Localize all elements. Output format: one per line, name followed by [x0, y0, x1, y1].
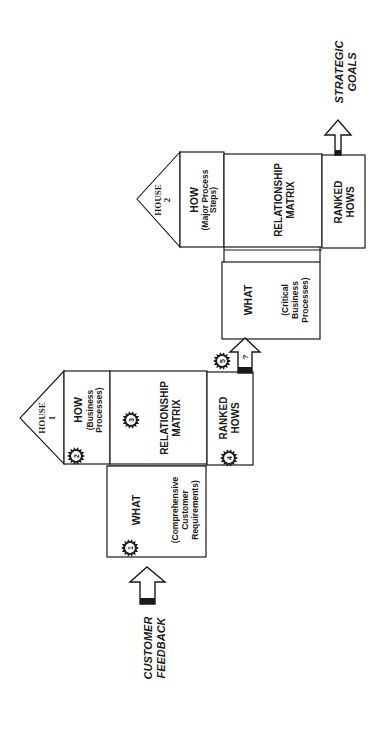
house-1-matrix-line2: MATRIX	[171, 399, 182, 437]
house-2-what-sub2: Business	[290, 281, 300, 319]
badge-number: 1	[127, 546, 134, 550]
house-1-roof-label: HOUSE	[37, 402, 47, 434]
arrow-base-mark	[238, 367, 252, 373]
output-label-line2: GOALS	[346, 52, 358, 92]
arrow-base-mark	[335, 150, 341, 155]
house-1-what-sub2: Customer	[180, 489, 190, 529]
house-1-how-sub2: Processes)	[94, 387, 104, 433]
house-1-what-sub1: (Comprehensive	[170, 476, 180, 543]
strategic-goals-arrow	[325, 120, 351, 155]
house-1-roof-number: 1	[47, 415, 57, 420]
house-1: HOUSE 1 HOW (Business Processes) RELATIO…	[20, 371, 253, 557]
qfd-diagram: HOUSE 2 HOW (Major Process Steps) RELATI…	[0, 0, 384, 732]
house-2-matrix-line1: RELATIONSHIP	[273, 163, 284, 237]
output-label-line1: STRATEGIC	[333, 40, 345, 104]
house-2-how-sub2: Steps)	[208, 187, 218, 213]
house-1-what-title: WHAT	[130, 494, 142, 525]
arrow-base-mark	[140, 598, 155, 604]
arrow-up-icon	[325, 120, 351, 155]
input-label-line1: CUSTOMER	[142, 617, 154, 680]
house-1-ranked-line1: RANKED	[218, 397, 229, 440]
transfer-arrow-label: ?	[241, 354, 250, 359]
house-2-what-sub1: (Critical	[280, 284, 290, 316]
house-2: HOUSE 2 HOW (Major Process Steps) RELATI…	[137, 152, 365, 339]
badge-number: 3	[128, 418, 135, 422]
input-label-line2: FEEDBACK	[155, 616, 167, 678]
house-2-ranked-line2: HOWS	[345, 186, 356, 217]
house-2-what-title: WHAT	[242, 284, 254, 315]
house-1-matrix-line1: RELATIONSHIP	[159, 381, 170, 455]
house-2-matrix-line2: MATRIX	[285, 181, 296, 219]
badge-number: 2	[73, 454, 80, 458]
house-1-what-sub3: Requirements)	[190, 480, 200, 540]
customer-feedback-arrow	[130, 567, 165, 604]
house-2-roof-number: 2	[162, 197, 172, 202]
house-1-how-title: HOW	[72, 397, 84, 423]
badge-number: 4	[226, 456, 233, 460]
house-2-how-title: HOW	[188, 187, 200, 213]
house-1-ranked-line2: HOWS	[230, 402, 241, 433]
house-2-what-sub3: Processes)	[300, 277, 310, 323]
house-2-ranked-line1: RANKED	[333, 181, 344, 224]
transfer-arrow: ?	[230, 338, 260, 373]
badge-number: 5	[219, 359, 226, 363]
step-badge-5: 5	[213, 352, 231, 370]
